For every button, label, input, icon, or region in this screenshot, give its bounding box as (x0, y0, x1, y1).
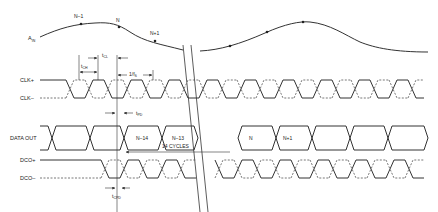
data-word-n-14: N–14 (136, 135, 148, 141)
sample-label-n-1: N–1 (74, 13, 83, 19)
dco-plus-waveform (40, 160, 424, 178)
sample-point (229, 45, 232, 48)
sample-label-n+1: N+1 (150, 30, 160, 36)
tpd-label: tPD (136, 110, 143, 117)
clk-minus-label: CLK– (20, 95, 35, 101)
data-word-n: N (249, 135, 253, 141)
data-out-label: DATA OUT (10, 135, 37, 141)
time-break-line (183, 45, 200, 212)
clk-minus-waveform (40, 80, 424, 98)
sample-point (118, 26, 121, 29)
sample-point (154, 40, 157, 43)
sample-point (80, 23, 83, 26)
dco-minus-waveform (40, 160, 424, 178)
dco-minus-label: DCO– (20, 175, 36, 181)
latency-label: 14 CYCLES (162, 143, 190, 149)
clk-plus-waveform (40, 80, 424, 98)
tcpd-label: tCPD (112, 193, 121, 200)
dco-plus-label: DCO+ (20, 157, 35, 163)
sample-label-n: N (116, 17, 120, 23)
timing-diagram: AIN CLK+ CLK– DATA OUT DCO+ DCO– N–1 N N… (0, 0, 438, 212)
time-break-line (191, 45, 208, 212)
ain-label: AIN (28, 35, 36, 43)
data-word-n-13: N–13 (172, 135, 184, 141)
analog-input-waveform (40, 23, 183, 50)
tch-label: tCH (81, 63, 88, 70)
analog-input-waveform-cont (200, 22, 428, 52)
sample-point (266, 31, 269, 34)
tcl-label: tCL (102, 52, 108, 59)
timing-annotations: tCH tCL 1/fS tPD tCPD 14 CYCLES (79, 52, 230, 212)
sample-point (302, 21, 305, 24)
clk-plus-label: CLK+ (20, 77, 34, 83)
data-word-n+1: N+1 (283, 135, 293, 141)
data-out-waveform (40, 126, 428, 150)
